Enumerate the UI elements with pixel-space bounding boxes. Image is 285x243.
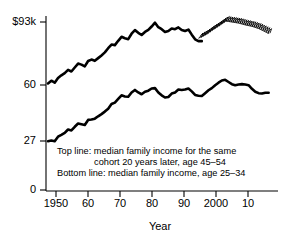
y-tick-group bbox=[40, 22, 46, 190]
x-tick-label-1990: 90 bbox=[178, 197, 190, 209]
annotation-line-3: Bottom line: median family income, age 2… bbox=[57, 168, 245, 178]
x-tick-label-1950: 1950 bbox=[44, 197, 68, 209]
x-tick-label-1960: 60 bbox=[82, 197, 94, 209]
chart-annotation: Top line: median family income for the s… bbox=[57, 146, 245, 178]
x-tick-label-2000: 2000 bbox=[204, 197, 228, 209]
x-tick-label-1980: 80 bbox=[146, 197, 158, 209]
series-hatched-projection bbox=[198, 16, 271, 38]
chart-svg: $93k 60 27 0 1950 60 70 80 90 2000 10 Y bbox=[0, 0, 285, 243]
y-tick-label-93k: $93k bbox=[12, 15, 36, 27]
x-axis-title: Year bbox=[149, 220, 172, 232]
series-line-bottom-age25-34 bbox=[48, 80, 269, 141]
x-axis: 1950 60 70 80 90 2000 10 Year bbox=[44, 191, 278, 232]
y-tick-label-60: 60 bbox=[24, 78, 36, 90]
series-group bbox=[48, 16, 271, 141]
chart-figure: $93k 60 27 0 1950 60 70 80 90 2000 10 Y bbox=[0, 0, 285, 243]
annotation-line-2: cohort 20 years later, age 45–54 bbox=[94, 157, 226, 167]
x-tick-label-1970: 70 bbox=[114, 197, 126, 209]
annotation-line-1: Top line: median family income for the s… bbox=[57, 146, 236, 156]
y-axis: $93k 60 27 0 bbox=[12, 15, 46, 195]
y-tick-label-27: 27 bbox=[24, 134, 36, 146]
series-line-top-cohort bbox=[48, 23, 202, 84]
x-tick-label-2010: 10 bbox=[242, 197, 254, 209]
y-tick-label-0: 0 bbox=[30, 183, 36, 195]
